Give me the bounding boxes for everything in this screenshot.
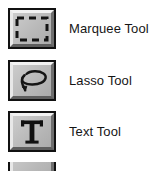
button-face	[13, 13, 51, 44]
list-item[interactable]	[0, 162, 166, 171]
list-item[interactable]: Marquee Tool	[0, 8, 166, 49]
tool-list: Marquee Tool Lasso Tool	[0, 0, 166, 171]
button-face	[13, 162, 51, 171]
marquee-tool-button[interactable]	[8, 8, 56, 49]
lasso-tool-button[interactable]	[8, 60, 56, 101]
tool-label: Marquee Tool	[69, 21, 149, 36]
tool-label: Lasso Tool	[69, 73, 132, 88]
button-face	[13, 65, 51, 96]
lasso-loop-icon	[16, 68, 48, 94]
text-tool-button[interactable]	[8, 111, 56, 152]
partially-visible-tool-button[interactable]	[8, 162, 56, 171]
list-item[interactable]: Lasso Tool	[0, 60, 166, 101]
button-face	[13, 116, 51, 147]
text-serif-t-icon	[19, 118, 45, 146]
tool-label: Text Tool	[69, 124, 121, 139]
list-item[interactable]: Text Tool	[0, 111, 166, 152]
marquee-dashed-rectangle-icon	[15, 16, 49, 42]
